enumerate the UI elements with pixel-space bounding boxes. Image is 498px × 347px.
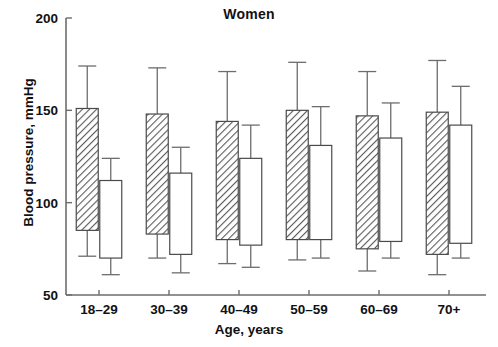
x-tick-label: 30–39 xyxy=(150,302,188,317)
bar-systolic xyxy=(146,114,168,234)
y-tick-label: 100 xyxy=(35,196,58,211)
bar-systolic xyxy=(76,108,98,230)
bar-diastolic xyxy=(310,145,332,239)
chart-container: Women Blood pressure, mmHg Age, years 50… xyxy=(0,0,498,347)
x-tick-label: 60–69 xyxy=(360,302,398,317)
y-tick-label: 50 xyxy=(43,288,58,303)
bar-systolic xyxy=(426,112,448,254)
bar-diastolic xyxy=(240,158,262,245)
bar-systolic xyxy=(356,116,378,249)
bar-diastolic xyxy=(170,173,192,254)
x-tick-label: 18–29 xyxy=(80,302,118,317)
bar-diastolic xyxy=(100,181,122,259)
bar-systolic xyxy=(216,121,238,239)
axes xyxy=(66,18,486,295)
plot-area: 5010015020018–2930–3940–4950–5960–6970+ xyxy=(0,0,498,347)
y-tick-label: 150 xyxy=(35,103,58,118)
bar-diastolic xyxy=(450,125,472,243)
x-tick-label: 40–49 xyxy=(220,302,258,317)
bar-systolic xyxy=(286,110,308,239)
x-tick-label: 50–59 xyxy=(290,302,328,317)
x-tick-label: 70+ xyxy=(438,302,461,317)
y-tick-label: 200 xyxy=(35,11,58,26)
bar-diastolic xyxy=(380,138,402,241)
bars xyxy=(76,60,472,274)
